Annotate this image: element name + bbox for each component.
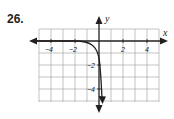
x-axis-label: x [162, 27, 168, 38]
x-axis-left-arrow-icon [29, 38, 37, 45]
y-tick-label: −4 [87, 86, 95, 93]
graph: −4 −2 2 4 −2 −4 y x [0, 0, 174, 119]
x-tick-label: 4 [145, 46, 149, 53]
x-tick-label: −2 [69, 46, 77, 53]
x-tick-label: 2 [120, 46, 125, 53]
x-tick-label: −4 [45, 46, 53, 53]
y-axis-label: y [104, 13, 110, 24]
y-axis-down-arrow-icon [96, 105, 103, 113]
y-tick-label: −2 [87, 62, 95, 69]
y-axis-up-arrow-icon [96, 16, 103, 24]
x-axis-right-arrow-icon [160, 38, 168, 45]
